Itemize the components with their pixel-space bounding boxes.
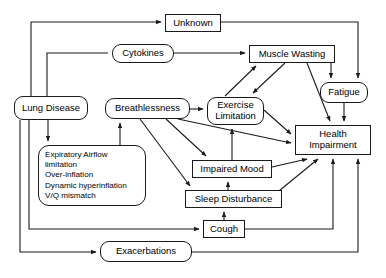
lung-disease-detail-list: Expiratory Airflow limitation Over-infla… <box>45 150 127 202</box>
edge-exercise-limitation-to-muscle-wasting <box>225 66 256 96</box>
node-lung-disease-label: Lung Disease <box>22 103 80 114</box>
node-lung-disease[interactable]: Lung Disease <box>14 96 88 120</box>
node-exacerbations-label: Exacerbations <box>116 246 176 257</box>
node-cytokines[interactable]: Cytokines <box>112 44 174 63</box>
node-unknown[interactable]: Unknown <box>165 14 221 32</box>
node-unknown-label: Unknown <box>173 18 213 29</box>
edge-breathlessness-to-impaired-mood <box>166 119 206 156</box>
node-cough-label: Cough <box>210 224 238 235</box>
node-health-impairment-label: Health Impairment <box>309 129 357 150</box>
node-exercise-limitation[interactable]: Exercise Limitation <box>207 97 264 125</box>
detail-line-5: V/Q mismatch <box>45 191 127 201</box>
edge-muscle-wasting-to-exercise-limitation <box>253 63 285 93</box>
node-cytokines-label: Cytokines <box>122 48 164 59</box>
node-fatigue-label: Fatigue <box>328 87 360 98</box>
node-breathlessness[interactable]: Breathlessness <box>105 98 190 119</box>
edge-exercise-limitation-to-health-impairment <box>264 110 291 134</box>
node-exacerbations[interactable]: Exacerbations <box>100 241 192 262</box>
detail-line-3: Over-inflation <box>45 170 127 180</box>
node-sleep-disturbance-label: Sleep Disturbance <box>195 194 273 205</box>
edge-impaired-mood-to-health-impairment <box>272 159 307 167</box>
edge-breathlessness-to-sleep-disturbance <box>140 119 190 186</box>
node-cough[interactable]: Cough <box>203 220 245 238</box>
node-exercise-limitation-label: Exercise Limitation <box>215 100 256 121</box>
node-muscle-wasting-label: Muscle Wasting <box>259 49 326 60</box>
node-sleep-disturbance[interactable]: Sleep Disturbance <box>185 190 282 208</box>
node-health-impairment-line2: Impairment <box>309 140 357 151</box>
node-muscle-wasting[interactable]: Muscle Wasting <box>249 45 335 63</box>
detail-line-1: Expiratory Airflow <box>45 150 127 160</box>
node-fatigue[interactable]: Fatigue <box>320 82 368 103</box>
node-impaired-mood-label: Impaired Mood <box>200 164 263 175</box>
detail-line-4: Dynamic hyperinflation <box>45 181 127 191</box>
node-health-impairment[interactable]: Health Impairment <box>295 125 371 155</box>
node-exercise-limitation-line2: Limitation <box>215 111 256 122</box>
detail-line-2: limitation <box>45 160 127 170</box>
node-impaired-mood[interactable]: Impaired Mood <box>192 160 272 178</box>
node-breathlessness-label: Breathlessness <box>115 103 180 114</box>
edge-lung-disease-to-cytokines <box>47 53 108 96</box>
diagram-canvas: Unknown Cytokines Muscle Wasting Fatigue… <box>0 0 386 278</box>
node-lung-disease-details[interactable]: Expiratory Airflow limitation Over-infla… <box>38 145 146 206</box>
